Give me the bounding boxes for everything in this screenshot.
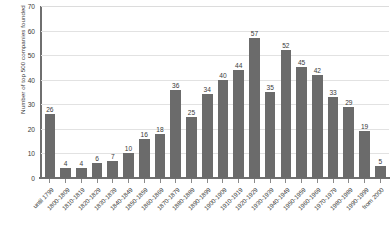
- bar-value-label: 10: [125, 145, 132, 152]
- bar: [170, 90, 181, 178]
- bar-value-label: 5: [378, 158, 382, 165]
- x-tick-mark: [191, 179, 192, 183]
- bar-slot: 7: [105, 6, 121, 178]
- bar: [202, 94, 213, 178]
- x-tick-mark: [144, 179, 145, 183]
- x-tick-mark: [317, 179, 318, 183]
- x-tick-slot: [136, 179, 152, 183]
- x-tick-slot: [357, 179, 373, 183]
- bar-value-label: 44: [235, 62, 242, 69]
- bar: [45, 114, 56, 178]
- bar-value-label: 57: [251, 30, 258, 37]
- bar-slot: 29: [341, 6, 357, 178]
- y-axis-tick-label: 40: [28, 76, 35, 83]
- bar-value-label: 40: [219, 72, 226, 79]
- x-tick-slot: [325, 179, 341, 183]
- bar: [359, 131, 370, 178]
- x-tick-slot: [231, 179, 247, 183]
- bar-slot: 18: [152, 6, 168, 178]
- x-tick-mark: [49, 179, 50, 183]
- bar-value-label: 52: [282, 42, 289, 49]
- bar-series: 264467101618362534404457355245423329195: [41, 6, 389, 178]
- x-tick-slot: [247, 179, 263, 183]
- x-tick-mark: [160, 179, 161, 183]
- x-tick-slot: [168, 179, 184, 183]
- bar-value-label: 4: [64, 160, 68, 167]
- x-tick-slot: [372, 179, 388, 183]
- bar-slot: 42: [309, 6, 325, 178]
- bar: [233, 70, 244, 178]
- bar-slot: 40: [215, 6, 231, 178]
- bar: [249, 38, 260, 178]
- bar-value-label: 4: [79, 160, 83, 167]
- bar: [139, 139, 150, 178]
- x-tick-slot: [42, 179, 58, 183]
- bar-slot: 35: [262, 6, 278, 178]
- bar-slot: 36: [168, 6, 184, 178]
- x-tick-mark: [207, 179, 208, 183]
- x-tick-slot: [199, 179, 215, 183]
- cropped-caption-sliver: ‐ ‐ ‐ ‐ ‐: [0, 0, 392, 4]
- bar: [107, 161, 118, 178]
- x-tick-mark: [97, 179, 98, 183]
- bar-value-label: 33: [329, 89, 336, 96]
- bar-value-label: 7: [111, 153, 115, 160]
- x-axis-tick-marks: [41, 179, 389, 183]
- bar-slot: 52: [278, 6, 294, 178]
- bar-value-label: 35: [266, 84, 273, 91]
- x-tick-slot: [73, 179, 89, 183]
- y-axis-tick-label: 0: [31, 175, 35, 182]
- bar-slot: 25: [184, 6, 200, 178]
- x-tick-slot: [58, 179, 74, 183]
- bar: [312, 75, 323, 178]
- bar-slot: 19: [357, 6, 373, 178]
- bar-slot: 4: [73, 6, 89, 178]
- bar-value-label: 29: [345, 99, 352, 106]
- bar-value-label: 45: [298, 59, 305, 66]
- x-tick-slot: [294, 179, 310, 183]
- bar-value-label: 42: [314, 67, 321, 74]
- y-axis-tick-label: 70: [28, 3, 35, 10]
- bar-slot: 6: [89, 6, 105, 178]
- x-tick-slot: [262, 179, 278, 183]
- bar: [186, 117, 197, 178]
- bar-chart: ‐ ‐ ‐ ‐ ‐ Number of top 500 companies fo…: [0, 0, 392, 225]
- y-axis-tick-label: 50: [28, 52, 35, 59]
- bar-slot: 26: [42, 6, 58, 178]
- bar-value-label: 16: [141, 131, 148, 138]
- bar-value-label: 18: [156, 126, 163, 133]
- bar-slot: 33: [325, 6, 341, 178]
- x-tick-mark: [112, 179, 113, 183]
- bar-value-label: 36: [172, 82, 179, 89]
- x-tick-slot: [341, 179, 357, 183]
- plot-area: 264467101618362534404457355245423329195: [41, 6, 389, 178]
- x-tick-mark: [285, 179, 286, 183]
- bar: [265, 92, 276, 178]
- bar-slot: 5: [372, 6, 388, 178]
- bar: [343, 107, 354, 178]
- y-axis-tick-label: 60: [28, 27, 35, 34]
- x-tick-slot: [309, 179, 325, 183]
- bar: [218, 80, 229, 178]
- x-tick-mark: [128, 179, 129, 183]
- y-axis-tick-label: 30: [28, 101, 35, 108]
- y-axis-tick-label: 20: [28, 125, 35, 132]
- bar: [328, 97, 339, 178]
- bar-slot: 45: [294, 6, 310, 178]
- bar-value-label: 26: [46, 106, 53, 113]
- bar-slot: 44: [231, 6, 247, 178]
- bar-value-label: 6: [95, 155, 99, 162]
- bar-slot: 16: [136, 6, 152, 178]
- x-tick-mark: [380, 179, 381, 183]
- x-tick-mark: [175, 179, 176, 183]
- x-axis-tick-labels: until 17991800-18091810-18191820-1829183…: [41, 184, 389, 225]
- bar: [281, 50, 292, 178]
- bar: [296, 67, 307, 178]
- bar: [155, 134, 166, 178]
- bar-slot: 34: [199, 6, 215, 178]
- bar-slot: 10: [121, 6, 137, 178]
- x-tick-slot: [105, 179, 121, 183]
- y-axis-tick-label: 10: [28, 150, 35, 157]
- x-tick-slot: [89, 179, 105, 183]
- x-label-slot: from 2000: [372, 184, 388, 225]
